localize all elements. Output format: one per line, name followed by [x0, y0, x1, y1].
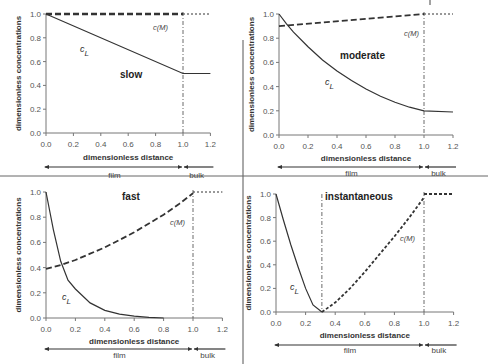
y-tick-label: 0.4 [263, 83, 275, 92]
cM-label: c(M) [404, 29, 419, 38]
x-tick-label: 0.2 [302, 142, 314, 151]
y-tick-label: 1.0 [30, 10, 42, 19]
x-axis-label: dimensionless distance [89, 337, 180, 346]
series-c-m- [322, 198, 424, 313]
y-axis-label: dimensionless concentrations [14, 15, 23, 131]
y-tick-label: 0.2 [30, 105, 42, 114]
y-tick-label: 1.0 [263, 10, 275, 19]
x-tick-label: 0.8 [389, 319, 401, 328]
film-label: film [108, 171, 121, 180]
y-tick-label: 0.4 [30, 81, 42, 90]
y-tick-label: 0.4 [260, 261, 272, 270]
y-tick-label: 0.8 [263, 34, 275, 43]
x-tick-label: 0.6 [360, 142, 372, 151]
y-tick-label: 0.2 [263, 107, 275, 116]
x-tick-label: 1.2 [447, 142, 459, 151]
bulk-label: bulk [431, 169, 447, 178]
cM-label: c(M) [170, 218, 185, 227]
x-tick-label: 0.6 [123, 140, 135, 149]
x-tick-label: 0.2 [300, 319, 312, 328]
bulk-label: bulk [189, 171, 205, 180]
y-tick-label: 0.0 [263, 131, 275, 140]
chart-title: moderate [340, 50, 385, 61]
x-tick-label: 0.2 [70, 325, 82, 334]
y-tick-label: 0.2 [30, 289, 42, 298]
x-tick-label: 1.0 [418, 142, 430, 151]
series-c-l [279, 14, 453, 112]
cL-label: cL [325, 77, 334, 91]
y-tick-label: 0.0 [260, 308, 272, 317]
chart-title: fast [122, 191, 140, 202]
figure: 0.00.20.40.60.81.00.00.20.40.60.81.01.2d… [0, 0, 488, 364]
film-label: film [113, 351, 126, 360]
chart-panel-instantaneous: 0.00.20.40.60.81.00.00.20.40.60.81.01.2d… [244, 190, 460, 355]
chart-panel-moderate: 0.00.20.40.60.81.00.00.20.40.60.81.01.2d… [247, 10, 459, 178]
film-label: film [345, 169, 358, 178]
chart-panel-slow: 0.00.20.40.60.81.00.00.20.40.60.81.01.2d… [14, 10, 217, 180]
y-tick-label: 0.6 [260, 237, 272, 246]
x-tick-label: 0.6 [359, 319, 371, 328]
x-tick-label: 0.0 [40, 325, 52, 334]
bulk-label: bulk [431, 346, 447, 355]
chart-title: instantaneous [325, 191, 393, 202]
y-axis-label: dimensionless concentrations [14, 197, 23, 313]
x-tick-label: 0.4 [331, 142, 343, 151]
x-tick-label: 1.0 [187, 325, 199, 334]
y-tick-label: 0.6 [30, 58, 42, 67]
y-tick-label: 0.6 [30, 238, 42, 247]
y-tick-label: 0.8 [30, 213, 42, 222]
y-tick-label: 0.2 [260, 284, 272, 293]
x-tick-label: 0.6 [129, 325, 141, 334]
y-tick-label: 0.8 [260, 214, 272, 223]
y-tick-label: 1.0 [260, 190, 272, 199]
x-tick-label: 0.2 [68, 140, 80, 149]
cL-label: cL [290, 282, 299, 296]
x-tick-label: 0.0 [270, 319, 282, 328]
x-tick-label: 0.4 [99, 325, 111, 334]
y-tick-label: 0.0 [30, 314, 42, 323]
x-axis-label: dimensionless distance [321, 154, 412, 163]
x-tick-label: 0.4 [330, 319, 342, 328]
series-c-l [46, 14, 210, 74]
x-tick-label: 1.0 [177, 140, 189, 149]
x-tick-label: 1.2 [205, 140, 217, 149]
bulk-label: bulk [200, 351, 216, 360]
x-tick-label: 0.4 [95, 140, 107, 149]
cM-label: c(M) [400, 234, 415, 243]
x-tick-label: 0.8 [150, 140, 162, 149]
chart-panel-fast: 0.00.20.40.60.81.00.00.20.40.60.81.01.2d… [14, 188, 229, 360]
y-tick-label: 0.8 [30, 34, 42, 43]
cM-label: c(M) [153, 23, 168, 32]
cL-label: cL [80, 44, 89, 58]
series-c-m- [46, 193, 193, 269]
x-axis-label: dimensionless distance [320, 331, 411, 340]
x-tick-label: 0.8 [389, 142, 401, 151]
y-tick-label: 0.4 [30, 264, 42, 273]
x-tick-label: 1.2 [448, 319, 460, 328]
y-axis-label: dimensionless concentrations [244, 195, 253, 311]
y-tick-label: 0.0 [30, 129, 42, 138]
x-tick-label: 1.0 [418, 319, 430, 328]
cL-label: cL [62, 292, 71, 306]
series-c-m- [279, 14, 424, 26]
y-tick-label: 1.0 [30, 188, 42, 197]
y-axis-label: dimensionless concentrations [247, 16, 256, 132]
x-tick-label: 0.0 [273, 142, 285, 151]
x-tick-label: 0.0 [40, 140, 52, 149]
film-label: film [344, 346, 357, 355]
y-tick-label: 0.6 [263, 58, 275, 67]
chart-title: slow [120, 69, 142, 80]
x-tick-label: 0.8 [158, 325, 170, 334]
x-axis-label: dimensionless distance [83, 153, 174, 162]
x-tick-label: 1.2 [217, 325, 229, 334]
